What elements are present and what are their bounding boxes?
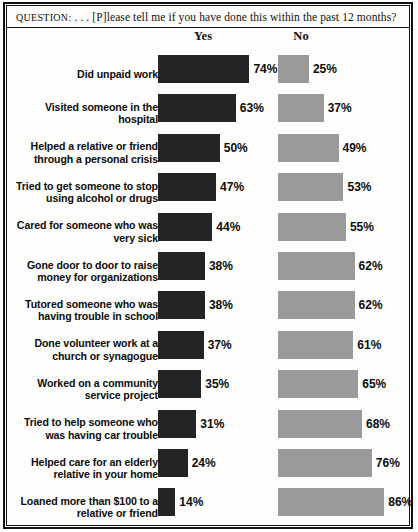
bar-yes bbox=[158, 331, 204, 359]
bar-value-yes: 24% bbox=[188, 449, 216, 477]
column-header-no: No bbox=[293, 29, 308, 44]
bar-value-yes: 50% bbox=[220, 134, 248, 162]
row-label-line: Worked on a community bbox=[10, 376, 158, 388]
chart-row: Tried to help someone whowas having car … bbox=[0, 409, 418, 448]
bar-value-no: 62% bbox=[355, 252, 383, 280]
chart-row: Done volunteer work at achurch or synago… bbox=[0, 330, 418, 369]
question-text: QUESTION: . . . [P]lease tell me if you … bbox=[7, 11, 396, 23]
row-label: Gone door to door to raisemoney for orga… bbox=[10, 258, 158, 283]
bar-yes bbox=[158, 213, 212, 241]
bar-yes bbox=[158, 488, 175, 516]
bar-value-yes: 37% bbox=[204, 331, 232, 359]
bar-value-yes: 74% bbox=[249, 55, 277, 83]
row-label: Worked on a communityservice project bbox=[10, 376, 158, 401]
row-label-line: Gone door to door to raise bbox=[10, 258, 158, 270]
bar-value-no: 37% bbox=[324, 94, 352, 122]
row-label-line: using alcohol or drugs bbox=[10, 192, 158, 204]
bar-yes bbox=[158, 94, 236, 122]
row-label-line: Did unpaid work bbox=[10, 67, 158, 79]
bar-value-no: 25% bbox=[309, 55, 337, 83]
bar-value-no: 65% bbox=[358, 370, 386, 398]
bar-value-yes: 63% bbox=[236, 94, 264, 122]
row-label-line: relative in your home bbox=[10, 468, 158, 480]
row-label-line: was having car trouble bbox=[10, 428, 158, 440]
bar-value-no: 86% bbox=[384, 488, 412, 516]
bar-value-no: 61% bbox=[353, 331, 381, 359]
chart-row: Helped care for an elderlyrelative in yo… bbox=[0, 448, 418, 487]
row-label-line: Visited someone in the bbox=[10, 101, 158, 113]
bar-value-no: 55% bbox=[346, 213, 374, 241]
row-label: Helped a relative or friendthrough a per… bbox=[10, 140, 158, 165]
row-label-line: having trouble in school bbox=[10, 310, 158, 322]
question-body: . . . [P]lease tell me if you have done … bbox=[71, 11, 396, 23]
bar-value-yes: 47% bbox=[216, 173, 244, 201]
bar-value-no: 49% bbox=[339, 134, 367, 162]
bar-no bbox=[278, 213, 346, 241]
bar-value-yes: 38% bbox=[205, 252, 233, 280]
row-label: Loaned more than $100 to arelative or fr… bbox=[10, 495, 158, 520]
row-label-line: Done volunteer work at a bbox=[10, 337, 158, 349]
chart-row: Cared for someone who wasvery sick44%55% bbox=[0, 212, 418, 251]
chart-row: Tutored someone who washaving trouble in… bbox=[0, 290, 418, 329]
row-label-line: Cared for someone who was bbox=[10, 219, 158, 231]
column-header-yes: Yes bbox=[194, 29, 212, 44]
bar-no bbox=[278, 370, 358, 398]
bar-yes bbox=[158, 252, 205, 280]
bar-value-yes: 14% bbox=[175, 488, 203, 516]
row-label: Done volunteer work at achurch or synago… bbox=[10, 337, 158, 362]
bar-no bbox=[278, 291, 355, 319]
bar-value-yes: 44% bbox=[212, 213, 240, 241]
bar-yes bbox=[158, 370, 201, 398]
bar-no bbox=[278, 173, 343, 201]
bar-value-no: 76% bbox=[372, 449, 400, 477]
row-label-line: service project bbox=[10, 389, 158, 401]
row-label-line: Tutored someone who was bbox=[10, 298, 158, 310]
row-label-line: very sick bbox=[10, 231, 158, 243]
bar-no bbox=[278, 252, 355, 280]
bar-value-no: 62% bbox=[355, 291, 383, 319]
bar-yes bbox=[158, 134, 220, 162]
bar-yes bbox=[158, 55, 249, 83]
row-label: Cared for someone who wasvery sick bbox=[10, 219, 158, 244]
bar-value-yes: 38% bbox=[205, 291, 233, 319]
chart-row: Visited someone in thehospital63%37% bbox=[0, 93, 418, 132]
chart-row: Worked on a communityservice project35%6… bbox=[0, 369, 418, 408]
bar-value-yes: 31% bbox=[196, 410, 224, 438]
row-label-line: Helped a relative or friend bbox=[10, 140, 158, 152]
bar-yes bbox=[158, 173, 216, 201]
row-label: Tried to get someone to stopusing alcoho… bbox=[10, 179, 158, 204]
bar-value-yes: 35% bbox=[201, 370, 229, 398]
bar-yes bbox=[158, 410, 196, 438]
row-label: Visited someone in thehospital bbox=[10, 101, 158, 126]
question-prefix: QUESTION: bbox=[16, 12, 71, 23]
row-label-line: church or synagogue bbox=[10, 349, 158, 361]
chart-row: Gone door to door to raisemoney for orga… bbox=[0, 251, 418, 290]
bar-no bbox=[278, 410, 362, 438]
row-label: Did unpaid work bbox=[10, 67, 158, 79]
bar-no bbox=[278, 449, 372, 477]
question-header: QUESTION: . . . [P]lease tell me if you … bbox=[7, 6, 409, 28]
row-label-line: Helped care for an elderly bbox=[10, 455, 158, 467]
row-label: Tutored someone who washaving trouble in… bbox=[10, 298, 158, 323]
row-label-line: through a personal crisis bbox=[10, 152, 158, 164]
row-label-line: Tried to help someone who bbox=[10, 416, 158, 428]
bar-no bbox=[278, 94, 324, 122]
bar-no bbox=[278, 488, 384, 516]
bar-yes bbox=[158, 291, 205, 319]
chart-row: Tried to get someone to stopusing alcoho… bbox=[0, 172, 418, 211]
chart-rows: Did unpaid work74%25%Visited someone in … bbox=[0, 54, 418, 527]
bar-no bbox=[278, 331, 353, 359]
chart-row: Helped a relative or friendthrough a per… bbox=[0, 133, 418, 172]
bar-value-no: 68% bbox=[362, 410, 390, 438]
bar-no bbox=[278, 134, 339, 162]
row-label-line: relative or friend bbox=[10, 507, 158, 519]
bar-no bbox=[278, 55, 309, 83]
row-label-line: money for organizations bbox=[10, 271, 158, 283]
chart-page: QUESTION: . . . [P]lease tell me if you … bbox=[0, 0, 418, 532]
row-label-line: hospital bbox=[10, 113, 158, 125]
bar-yes bbox=[158, 449, 188, 477]
row-label: Helped care for an elderlyrelative in yo… bbox=[10, 455, 158, 480]
chart-row: Loaned more than $100 to arelative or fr… bbox=[0, 487, 418, 526]
row-label-line: Tried to get someone to stop bbox=[10, 179, 158, 191]
row-label: Tried to help someone whowas having car … bbox=[10, 416, 158, 441]
